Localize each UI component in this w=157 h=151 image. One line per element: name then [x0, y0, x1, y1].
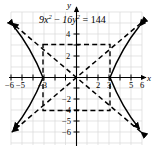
xtick-label-6: 6 — [140, 81, 144, 90]
ytick-label-4: 4 — [66, 30, 70, 39]
y-axis-label: y — [67, 1, 71, 10]
ytick-label-neg6: −6 — [62, 128, 71, 137]
ytick-label-neg2: −2 — [62, 95, 71, 104]
xtick-label-neg3: −3 — [38, 81, 47, 90]
equation-annotation: 9x2 − 16y2 = 144 — [39, 13, 106, 25]
ytick-label-2: 2 — [66, 52, 70, 61]
x-axis-label: x — [147, 74, 151, 83]
xtick-label-3: 3 — [107, 81, 111, 90]
xtick-label-neg5: −5 — [16, 81, 25, 90]
equation-coef-y: 16 — [62, 14, 72, 25]
equation-equals: = — [83, 14, 89, 25]
equation-exp-x: 2 — [48, 13, 51, 20]
hyperbola-figure: 9x2 − 16y2 = 144 y x −6 −5 −3 2 3 5 6 4 … — [0, 0, 157, 151]
axes — [9, 7, 146, 146]
equation-rhs: 144 — [91, 14, 106, 25]
ytick-label-neg4: −4 — [62, 106, 71, 115]
xtick-label-neg6: −6 — [5, 81, 14, 90]
equation-operator: − — [54, 14, 60, 25]
xtick-label-2: 2 — [96, 81, 100, 90]
ytick-label-neg5: −5 — [62, 117, 71, 126]
equation-exp-y: 2 — [77, 13, 80, 20]
xtick-label-5: 5 — [129, 81, 133, 90]
